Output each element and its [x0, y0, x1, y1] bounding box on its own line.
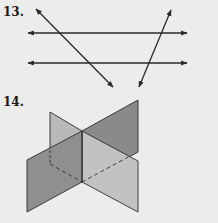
- transversal-left: [36, 9, 113, 87]
- transversal-right: [139, 10, 171, 87]
- figures-canvas: [0, 0, 218, 223]
- figure-13-parallel-lines: [28, 9, 187, 87]
- figure-14-intersecting-planes: [27, 100, 138, 212]
